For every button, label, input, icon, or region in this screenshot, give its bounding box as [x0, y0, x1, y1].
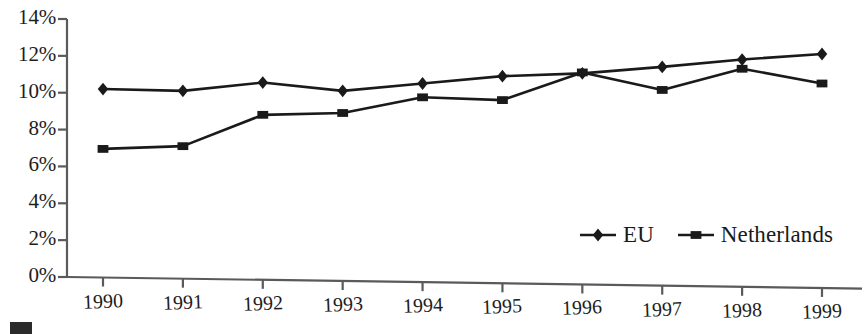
square-marker-icon: [676, 225, 716, 245]
chart-legend: EUNetherlands: [578, 222, 833, 248]
x-axis-label-1993: 1993: [314, 292, 371, 317]
x-axis-label-1990: 1990: [75, 288, 132, 313]
x-axis-tick-labels: 1990199119921993199419951996199719981999: [0, 0, 868, 334]
x-axis-label-1997: 1997: [634, 297, 691, 322]
x-axis-label-1999: 1999: [794, 299, 851, 324]
legend-entry-netherlands: Netherlands: [676, 222, 833, 248]
diamond-marker-icon: [578, 225, 618, 245]
x-axis-label-1998: 1998: [714, 298, 771, 323]
legend-entry-eu: EU: [578, 222, 654, 248]
line-chart: 0%2%4%6%8%10%12%14% 19901991199219931994…: [0, 0, 868, 334]
x-axis-label-1991: 1991: [154, 290, 211, 315]
x-axis-label-1992: 1992: [234, 291, 291, 316]
x-axis-label-1994: 1994: [394, 293, 451, 318]
page-corner-mark: [10, 322, 32, 334]
x-axis-label-1996: 1996: [554, 295, 611, 320]
x-axis-label-1995: 1995: [474, 294, 531, 319]
legend-label-netherlands: Netherlands: [721, 222, 833, 248]
legend-label-eu: EU: [623, 222, 654, 248]
